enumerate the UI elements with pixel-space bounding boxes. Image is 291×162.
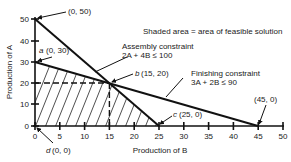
y-tick: 10 bbox=[20, 100, 29, 109]
arrow-c bbox=[160, 116, 172, 124]
x-axis-title: Production of B bbox=[133, 146, 188, 155]
arrow-0-50 bbox=[38, 12, 66, 18]
label-45-0: (45, 0) bbox=[254, 95, 277, 104]
label-finishing-title: Finishing constraint bbox=[191, 69, 261, 78]
x-tick: 40 bbox=[229, 132, 238, 141]
label-finishing-eq: 3A + 2B ≤ 90 bbox=[191, 78, 238, 87]
y-tick: 40 bbox=[20, 37, 29, 46]
y-tick-labels: 50 40 30 20 10 0 bbox=[20, 15, 29, 131]
x-tick-labels: 0 5 10 15 20 25 30 35 40 45 50 bbox=[33, 132, 288, 141]
arrow-b bbox=[112, 74, 133, 82]
label-a: a bbox=[39, 46, 44, 55]
x-tick: 20 bbox=[130, 132, 139, 141]
arrow-d bbox=[37, 128, 53, 143]
linear-programming-chart: 50 40 30 20 10 0 0 5 10 15 20 25 30 35 4… bbox=[0, 0, 291, 162]
label-b: b bbox=[135, 69, 140, 78]
x-tick: 5 bbox=[58, 132, 63, 141]
label-assembly-title: Assembly constraint bbox=[122, 42, 194, 51]
arrow-finishing bbox=[166, 78, 183, 97]
label-d-coords: (0, 0) bbox=[52, 146, 71, 155]
label-d: d bbox=[46, 146, 51, 155]
arrow-a bbox=[38, 57, 52, 61]
x-tick: 25 bbox=[155, 132, 164, 141]
feasible-note: Shaded area = area of feasible solution bbox=[143, 27, 282, 36]
arrow-45-0 bbox=[259, 105, 266, 124]
y-tick: 20 bbox=[20, 79, 29, 88]
label-assembly-eq: 2A + 4B ≤ 100 bbox=[122, 51, 173, 60]
label-0-50: (0, 50) bbox=[68, 7, 91, 16]
x-tick: 15 bbox=[105, 132, 114, 141]
y-tick: 30 bbox=[20, 58, 29, 67]
label-b-coords: (15, 20) bbox=[141, 69, 169, 78]
x-tick: 30 bbox=[179, 132, 188, 141]
y-axis bbox=[31, 17, 39, 127]
y-tick: 50 bbox=[20, 15, 29, 24]
x-tick: 0 bbox=[33, 132, 38, 141]
x-tick: 45 bbox=[254, 132, 263, 141]
label-a-coords: (0, 30) bbox=[46, 46, 69, 55]
x-tick: 50 bbox=[279, 132, 288, 141]
x-tick: 10 bbox=[80, 132, 89, 141]
label-c: c bbox=[173, 110, 177, 119]
x-tick: 35 bbox=[204, 132, 213, 141]
y-axis-title: Production of A bbox=[5, 44, 14, 99]
y-tick: 0 bbox=[25, 122, 30, 131]
label-c-coords: (25, 0) bbox=[179, 110, 202, 119]
